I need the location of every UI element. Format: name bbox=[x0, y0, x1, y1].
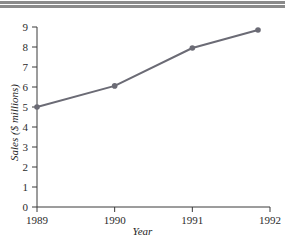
data-point-1989 bbox=[34, 104, 40, 110]
x-axis-ticks bbox=[37, 207, 270, 212]
line-chart: 9 8 7 6 5 4 3 2 1 0 1989 1990 1991 1992 … bbox=[0, 14, 285, 245]
data-point-markers bbox=[34, 27, 261, 110]
y-tick-label-1: 1 bbox=[12, 182, 28, 193]
y-tick-label-0: 0 bbox=[12, 202, 28, 213]
y-axis-ticks bbox=[32, 27, 37, 207]
x-tick-label-1992: 1992 bbox=[250, 215, 285, 226]
x-tick-label-1989: 1989 bbox=[17, 215, 57, 226]
x-tick-label-1990: 1990 bbox=[95, 215, 135, 226]
header-rule-top bbox=[0, 1, 285, 4]
chart-page: 9 8 7 6 5 4 3 2 1 0 1989 1990 1991 1992 … bbox=[0, 0, 285, 245]
x-tick-label-1991: 1991 bbox=[172, 215, 212, 226]
header-rule-bottom bbox=[0, 5, 285, 8]
data-point-1990 bbox=[112, 83, 118, 89]
plot-area bbox=[0, 14, 285, 245]
data-point-1992 bbox=[255, 27, 261, 33]
data-point-1991 bbox=[190, 45, 196, 51]
y-axis-title: Sales ($ millions) bbox=[9, 63, 20, 183]
y-tick-label-9: 9 bbox=[12, 22, 28, 33]
y-tick-label-8: 8 bbox=[12, 42, 28, 53]
x-axis-title: Year bbox=[0, 226, 285, 237]
data-series-line bbox=[37, 30, 258, 107]
